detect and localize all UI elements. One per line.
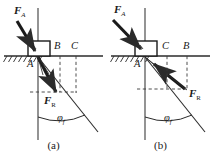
block-body	[135, 41, 157, 56]
diagram-panel-a: FA FR A B C φf (a)	[0, 0, 107, 159]
label-point-a: A	[134, 59, 140, 70]
diagram-a-canvas	[0, 0, 107, 159]
label-force-applied-a: FA	[14, 5, 26, 19]
ground-hatching	[4, 56, 43, 62]
caption-a: (a)	[0, 139, 107, 151]
force-ray-fan	[145, 57, 187, 90]
diagram-panel-b: FA FR A C B φf (b)	[107, 0, 214, 159]
label-point-a: A	[27, 59, 33, 70]
force-resultant-arrow	[38, 57, 56, 92]
diagram-b-canvas	[107, 0, 214, 159]
label-point-c: C	[71, 41, 78, 52]
force-applied-arrow	[113, 20, 141, 49]
label-force-applied-b: FA	[114, 4, 126, 18]
label-point-b: B	[54, 41, 60, 52]
label-point-c: C	[162, 41, 169, 52]
caption-b: (b)	[107, 139, 214, 151]
label-point-b: B	[183, 41, 189, 52]
label-force-resultant-a: FR	[44, 95, 56, 109]
label-friction-angle-b: φf	[164, 113, 172, 126]
label-force-resultant-b: FR	[189, 88, 201, 102]
label-friction-angle-a: φf	[57, 113, 65, 126]
ground-hatching	[111, 56, 150, 62]
figure-root: FA FR A B C φf (a)	[0, 0, 214, 159]
force-applied-arrow	[17, 21, 35, 51]
